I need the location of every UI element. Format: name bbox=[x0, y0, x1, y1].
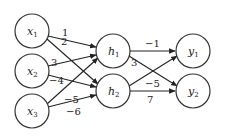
neural-network-diagram: 1 2 3 −4 −5 −6 −1 3 −5 7 x1 x2 x3 h1 bbox=[0, 0, 227, 140]
weight-x2-h1: 3 bbox=[51, 57, 57, 68]
output-layer: y1 y2 bbox=[176, 34, 210, 108]
node-y2: y2 bbox=[176, 74, 210, 108]
hidden-layer: h1 h2 bbox=[96, 34, 130, 108]
input-layer: x1 x2 x3 bbox=[15, 14, 49, 128]
weight-h2-y1: −5 bbox=[145, 78, 160, 89]
weight-h1-y2: 3 bbox=[131, 57, 137, 68]
weight-x1-h2: 2 bbox=[61, 36, 67, 47]
weight-h1-y1: −1 bbox=[145, 38, 160, 49]
weight-x2-h2: −4 bbox=[49, 75, 64, 86]
weight-h2-y2: 7 bbox=[147, 94, 153, 105]
node-x2: x2 bbox=[15, 54, 49, 88]
node-y1: y1 bbox=[176, 34, 210, 68]
weight-x3-h2: −6 bbox=[66, 106, 81, 117]
node-x1: x1 bbox=[15, 14, 49, 48]
node-h2: h2 bbox=[96, 74, 130, 108]
diagram-canvas: 1 2 3 −4 −5 −6 −1 3 −5 7 x1 x2 x3 h1 bbox=[0, 0, 227, 140]
node-x3: x3 bbox=[15, 94, 49, 128]
node-h1: h1 bbox=[96, 34, 130, 68]
edge-x1-h1 bbox=[48, 36, 96, 47]
weight-x3-h1: −5 bbox=[64, 94, 79, 105]
